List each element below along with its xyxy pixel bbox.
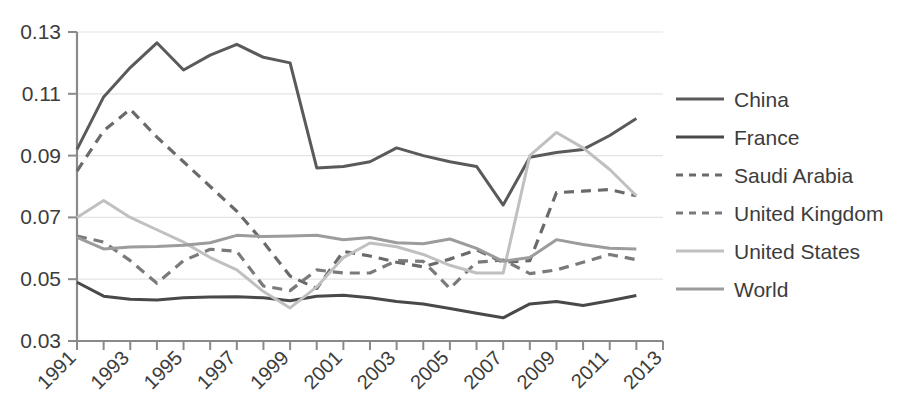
data-series-group [77, 43, 636, 318]
x-tick-label: 1991 [33, 346, 80, 393]
x-tick-label: 2005 [406, 346, 453, 393]
x-tick-label: 2003 [352, 346, 399, 393]
y-tick-labels: 0.030.050.070.090.110.13 [20, 20, 61, 352]
x-tick-label: 1995 [139, 346, 186, 393]
series-line-united-states [77, 132, 636, 308]
x-tick-label: 2013 [619, 346, 666, 393]
y-tick-label: 0.07 [20, 205, 61, 228]
x-tick-labels: 1991199319951997199920012003200520072009… [33, 346, 666, 393]
line-chart: 0.030.050.070.090.110.13 199119931995199… [0, 0, 906, 407]
x-tick-label: 1993 [86, 346, 133, 393]
y-tick-label: 0.03 [20, 329, 61, 352]
series-line-world [77, 235, 636, 261]
y-tick-label: 0.09 [20, 144, 61, 167]
series-line-china [77, 43, 636, 205]
y-tick-label: 0.13 [20, 20, 61, 43]
series-line-france [77, 282, 636, 318]
legend: ChinaFranceSaudi ArabiaUnited KingdomUni… [676, 88, 883, 301]
x-tick-label: 2001 [299, 346, 346, 393]
legend-label-united-kingdom[interactable]: United Kingdom [734, 202, 883, 225]
x-tick-label: 1999 [246, 346, 293, 393]
x-axis [77, 341, 663, 350]
x-tick-label: 2007 [459, 346, 506, 393]
y-tick-label: 0.11 [22, 82, 61, 105]
legend-label-france[interactable]: France [734, 126, 799, 149]
x-tick-label: 1997 [193, 346, 240, 393]
x-tick-label: 2009 [512, 346, 559, 393]
chart-canvas: 0.030.050.070.090.110.13 199119931995199… [0, 0, 906, 407]
legend-label-china[interactable]: China [734, 88, 789, 111]
x-tick-label: 2011 [567, 346, 613, 392]
y-tick-label: 0.05 [20, 267, 61, 290]
legend-label-world[interactable]: World [734, 278, 788, 301]
legend-label-united-states[interactable]: United States [734, 240, 860, 263]
legend-label-saudi-arabia[interactable]: Saudi Arabia [734, 164, 853, 187]
y-axis [68, 32, 77, 341]
gridlines [77, 32, 663, 341]
